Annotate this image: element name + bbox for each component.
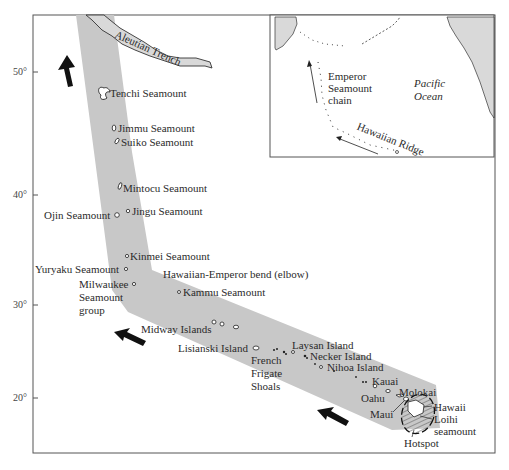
inset-label-emperor-2: Seamount bbox=[328, 82, 372, 94]
label-jingu-seamount: Jingu Seamount bbox=[132, 205, 203, 217]
yuryaku-seamount-shape bbox=[124, 267, 127, 270]
label-milwaukee-1: Milwaukee bbox=[79, 278, 128, 290]
label-hawaii: Hawaii bbox=[434, 401, 466, 413]
label-lisianski-island: Lisianski Island bbox=[178, 342, 248, 354]
inset-label-emperor-1: Emperor bbox=[328, 70, 366, 82]
label-midway-islands: Midway Islands bbox=[141, 323, 212, 335]
label-loihi-2: seamount bbox=[434, 425, 476, 437]
lat-tick-50: 50° bbox=[13, 66, 27, 77]
map-canvas bbox=[0, 0, 509, 470]
midway-island-shape bbox=[212, 320, 216, 324]
inset-label-emperor-3: chain bbox=[328, 94, 352, 106]
inset-label-ocean: Ocean bbox=[414, 90, 443, 102]
milwaukee-seamount-shape bbox=[132, 282, 135, 285]
label-molokai: Molokai bbox=[399, 386, 436, 398]
jimmu-seamount-shape bbox=[112, 125, 116, 131]
label-hotspot: Hotspot bbox=[404, 437, 439, 449]
oahu-shape bbox=[386, 389, 390, 392]
lat-tick-20: 20° bbox=[13, 392, 27, 403]
label-oahu: Oahu bbox=[361, 392, 385, 404]
lat-tick-40: 40° bbox=[13, 189, 27, 200]
jingu-seamount-shape bbox=[126, 209, 129, 212]
lat-tick-30: 30° bbox=[13, 299, 27, 310]
label-french-2: Frigate bbox=[251, 367, 282, 379]
label-suiko-seamount: Suiko Seamount bbox=[121, 136, 193, 148]
ojin-seamount-shape bbox=[115, 213, 120, 218]
kinmei-seamount-shape bbox=[125, 254, 128, 257]
label-maui: Maui bbox=[370, 408, 393, 420]
label-ojin-seamount: Ojin Seamount bbox=[44, 209, 110, 221]
nihoa-island-shape bbox=[320, 366, 323, 369]
label-milwaukee-3: group bbox=[79, 304, 105, 316]
midway-island-shape-2 bbox=[220, 322, 224, 326]
label-kauai: Kauai bbox=[372, 375, 398, 387]
label-nihoa-island: Nihoa Island bbox=[327, 361, 384, 373]
midway-island-shape-3 bbox=[233, 325, 238, 329]
lisianski-island-shape bbox=[253, 346, 259, 350]
label-mintocu-seamount: Mintocu Seamount bbox=[123, 182, 207, 194]
label-french-3: Shoals bbox=[251, 380, 280, 392]
label-kinmei-seamount: Kinmei Seamount bbox=[130, 250, 210, 262]
kammu-seamount-shape bbox=[178, 291, 181, 294]
label-hawaiian-emperor-bend: Hawaiian-Emperor bend (elbow) bbox=[163, 268, 308, 280]
label-tenchi-seamount: Tenchi Seamount bbox=[110, 87, 187, 99]
label-loihi-1: Loihi bbox=[434, 413, 458, 425]
label-milwaukee-2: Seamount bbox=[79, 291, 123, 303]
label-yuryaku-seamount: Yuryaku Seamount bbox=[35, 263, 119, 275]
label-french-1: French bbox=[251, 354, 282, 366]
label-jimmu-seamount: Jimmu Seamount bbox=[118, 122, 195, 134]
label-kammu-seamount: Kammu Seamount bbox=[183, 286, 265, 298]
inset-label-pacific: Pacific bbox=[414, 77, 445, 89]
